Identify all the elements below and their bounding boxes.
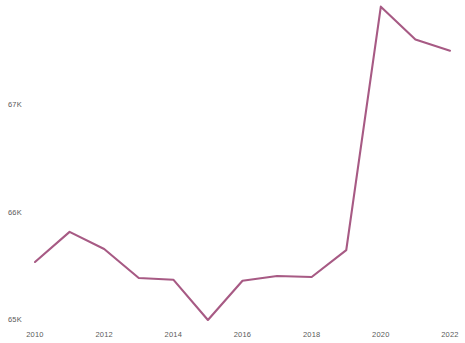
x-axis-tick-2022: 2022 [441, 331, 459, 339]
x-axis-tick-2018: 2018 [303, 331, 321, 339]
x-axis-tick-2016: 2016 [234, 331, 252, 339]
y-axis-tick-65K: 65K [8, 316, 22, 324]
x-axis-tick-2020: 2020 [372, 331, 390, 339]
x-axis-tick-2014: 2014 [165, 331, 183, 339]
line-chart: 67K66K65K 2010201220142016201820202022 [0, 0, 465, 343]
y-axis-tick-66K: 66K [8, 209, 22, 217]
x-axis-tick-2012: 2012 [95, 331, 113, 339]
data-line-series-0 [35, 7, 450, 320]
x-axis-tick-2010: 2010 [26, 331, 44, 339]
chart-plot-area [0, 0, 465, 343]
y-axis-tick-67K: 67K [8, 101, 22, 109]
